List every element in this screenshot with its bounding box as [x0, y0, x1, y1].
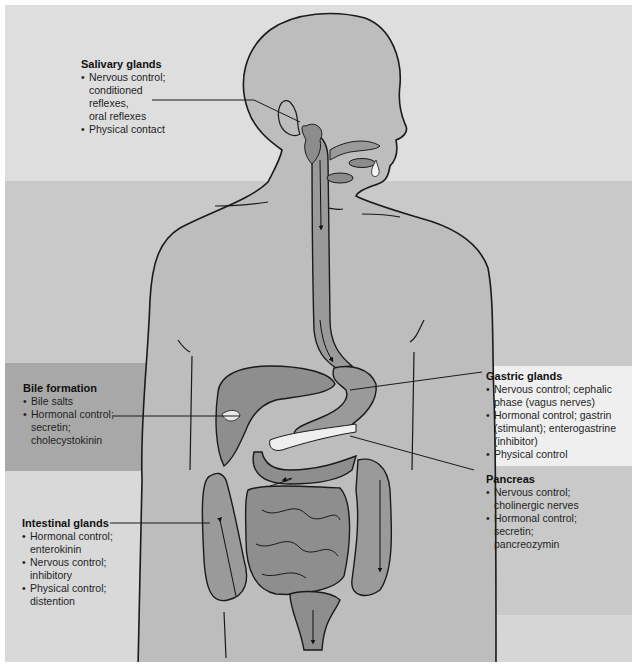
label-item: Nervous control; cholinergic nerves — [486, 486, 632, 512]
label-title: Gastric glands — [486, 369, 632, 383]
label-item: Hormonal control; secretin; cholecystoki… — [23, 408, 133, 447]
diagram-frame: Salivary glands Nervous control; conditi… — [5, 5, 632, 662]
label-pancreas: Pancreas Nervous control; cholinergic ne… — [486, 472, 632, 551]
label-item: Nervous control; conditioned reflexes, o… — [81, 71, 221, 123]
label-item: Bile salts — [23, 395, 133, 408]
descending-colon — [352, 459, 392, 595]
label-item: Nervous control; cephalic phase (vagus n… — [486, 383, 632, 409]
label-title: Bile formation — [23, 381, 133, 395]
label-title: Intestinal glands — [22, 516, 142, 530]
label-item: Hormonal control; gastrin (stimulant); e… — [486, 409, 632, 448]
label-item: Hormonal control; secretin; pancreozymin — [486, 512, 632, 551]
label-title: Salivary glands — [81, 57, 221, 71]
label-item: Physical control; distention — [22, 582, 142, 608]
label-gastric-glands: Gastric glands Nervous control; cephalic… — [486, 369, 632, 461]
label-item: Hormonal control; enterokinin — [22, 530, 142, 556]
label-bile-formation: Bile formation Bile salts Hormonal contr… — [23, 381, 133, 447]
label-item: Physical contact — [81, 123, 221, 136]
label-item: Nervous control; inhibitory — [22, 556, 142, 582]
small-intestine — [246, 486, 350, 594]
label-item: Physical control — [486, 448, 632, 461]
label-intestinal-glands: Intestinal glands Hormonal control; ente… — [22, 516, 142, 608]
label-salivary-glands: Salivary glands Nervous control; conditi… — [81, 57, 221, 136]
label-title: Pancreas — [486, 472, 632, 486]
